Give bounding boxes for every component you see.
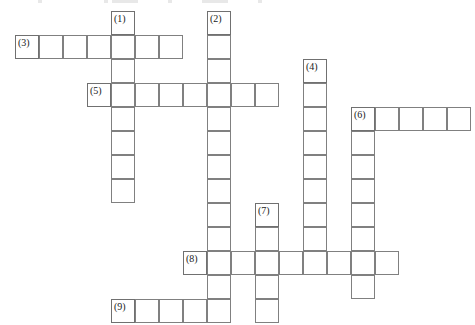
crossword-cell[interactable] <box>207 251 231 275</box>
crossword-cell[interactable] <box>159 83 183 107</box>
crossword-cell-numbered[interactable]: (6) <box>351 107 375 131</box>
crossword-cell-numbered[interactable]: (3) <box>15 35 39 59</box>
crossword-puzzle: (1)(2)(3)(4)(5)(6)(7)(8)(9) <box>0 0 475 325</box>
crossword-cell[interactable] <box>159 35 183 59</box>
crossword-cell[interactable] <box>351 275 375 299</box>
crossword-cell[interactable] <box>351 179 375 203</box>
clue-number: (1) <box>114 12 126 25</box>
crossword-cell[interactable] <box>183 299 207 323</box>
crossword-cell[interactable] <box>255 299 279 323</box>
crossword-cell[interactable] <box>255 251 279 275</box>
crossword-cell[interactable] <box>111 179 135 203</box>
crossword-cell[interactable] <box>111 131 135 155</box>
clue-number: (4) <box>306 60 318 73</box>
crossword-cell[interactable] <box>207 155 231 179</box>
crossword-cell[interactable] <box>207 59 231 83</box>
crossword-cell[interactable] <box>111 35 135 59</box>
clue-number: (5) <box>90 84 102 97</box>
crossword-cell[interactable] <box>207 203 231 227</box>
crossword-cell-numbered[interactable]: (7) <box>255 203 279 227</box>
crossword-cell[interactable] <box>303 251 327 275</box>
crossword-cell[interactable] <box>159 299 183 323</box>
crossword-cell[interactable] <box>231 83 255 107</box>
crossword-cell-numbered[interactable]: (1) <box>111 11 135 35</box>
crossword-cell[interactable] <box>231 251 255 275</box>
crossword-cell[interactable] <box>375 107 399 131</box>
crossword-cell[interactable] <box>255 275 279 299</box>
clue-number: (2) <box>210 12 222 25</box>
crossword-cell-numbered[interactable]: (8) <box>183 251 207 275</box>
crossword-cell[interactable] <box>303 227 327 251</box>
crossword-cell[interactable] <box>207 179 231 203</box>
crossword-cell-numbered[interactable]: (5) <box>87 83 111 107</box>
crossword-cell[interactable] <box>39 35 63 59</box>
crossword-cell[interactable] <box>111 107 135 131</box>
crossword-cell[interactable] <box>399 107 423 131</box>
crossword-cell[interactable] <box>111 155 135 179</box>
crossword-cell[interactable] <box>135 299 159 323</box>
crossword-cell[interactable] <box>207 35 231 59</box>
crossword-cell[interactable] <box>351 227 375 251</box>
crossword-cell[interactable] <box>111 59 135 83</box>
crossword-cell[interactable] <box>111 83 135 107</box>
crossword-grid: (1)(2)(3)(4)(5)(6)(7)(8)(9) <box>0 0 475 325</box>
clue-number: (3) <box>18 36 30 49</box>
crossword-cell[interactable] <box>183 83 207 107</box>
crossword-cell[interactable] <box>351 131 375 155</box>
crossword-cell-numbered[interactable]: (2) <box>207 11 231 35</box>
crossword-cell[interactable] <box>207 275 231 299</box>
crossword-cell[interactable] <box>303 131 327 155</box>
clue-number: (8) <box>186 252 198 265</box>
crossword-cell[interactable] <box>327 251 351 275</box>
crossword-cell[interactable] <box>207 83 231 107</box>
clue-number: (9) <box>114 300 126 313</box>
crossword-cell[interactable] <box>303 107 327 131</box>
clue-number: (6) <box>354 108 366 121</box>
crossword-cell[interactable] <box>135 83 159 107</box>
crossword-cell[interactable] <box>303 203 327 227</box>
crossword-cell[interactable] <box>375 251 399 275</box>
crossword-cell[interactable] <box>351 155 375 179</box>
crossword-cell[interactable] <box>255 83 279 107</box>
crossword-cell[interactable] <box>423 107 447 131</box>
crossword-cell-numbered[interactable]: (4) <box>303 59 327 83</box>
crossword-cell[interactable] <box>135 35 159 59</box>
crossword-cell[interactable] <box>63 35 87 59</box>
crossword-cell[interactable] <box>303 155 327 179</box>
crossword-cell[interactable] <box>447 107 471 131</box>
crossword-cell[interactable] <box>207 227 231 251</box>
crossword-cell[interactable] <box>303 83 327 107</box>
crossword-cell[interactable] <box>351 203 375 227</box>
crossword-cell-numbered[interactable]: (9) <box>111 299 135 323</box>
crossword-cell[interactable] <box>255 227 279 251</box>
crossword-cell[interactable] <box>207 131 231 155</box>
crossword-cell[interactable] <box>207 107 231 131</box>
clue-number: (7) <box>258 204 270 217</box>
crossword-cell[interactable] <box>351 251 375 275</box>
crossword-cell[interactable] <box>279 251 303 275</box>
crossword-cell[interactable] <box>87 35 111 59</box>
crossword-cell[interactable] <box>303 179 327 203</box>
crossword-cell[interactable] <box>207 299 231 323</box>
